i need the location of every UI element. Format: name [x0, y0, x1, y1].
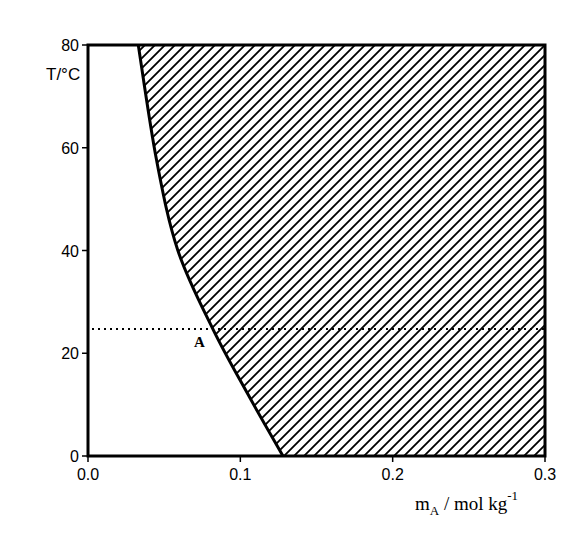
phase-diagram-chart: 020406080 0.00.10.20.3 A T/°C mA / mol k… [0, 0, 583, 541]
y-axis-label: T/°C [46, 65, 80, 84]
x-axis-label-main: m [415, 493, 430, 514]
x-tick-label: 0.3 [534, 466, 556, 483]
y-tick-label: 80 [61, 37, 79, 54]
x-axis-label-superscript: -1 [507, 488, 518, 503]
y-axis-ticks: 020406080 [61, 37, 88, 465]
x-tick-label: 0.0 [77, 466, 99, 483]
x-axis-ticks: 0.00.10.20.3 [77, 456, 556, 483]
hatched-region [138, 45, 545, 456]
x-axis-label: mA / mol kg-1 [415, 488, 518, 518]
x-tick-label: 0.2 [382, 466, 404, 483]
y-tick-label: 0 [70, 448, 79, 465]
y-tick-label: 20 [61, 345, 79, 362]
x-axis-label-unit: / mol kg [439, 493, 508, 514]
x-tick-label: 0.1 [229, 466, 251, 483]
y-tick-label: 60 [61, 140, 79, 157]
y-tick-label: 40 [61, 243, 79, 260]
point-a-label: A [194, 334, 205, 350]
